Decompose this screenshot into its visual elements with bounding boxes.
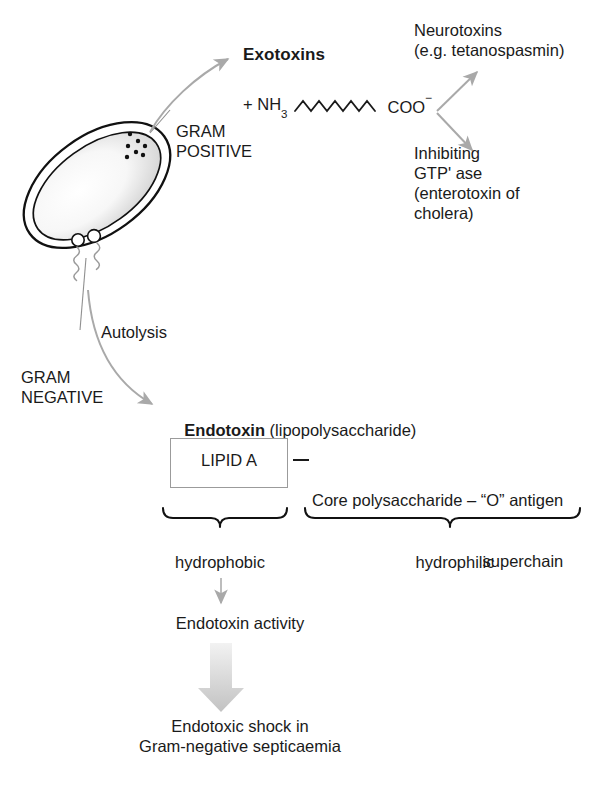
flagellum-2	[94, 243, 100, 269]
diagram-canvas: Exotoxins Neurotoxins (e.g. tetanospasmi…	[0, 0, 592, 788]
peptide-zigzag-icon	[294, 97, 380, 115]
label-exotoxins: Exotoxins	[243, 45, 325, 66]
peptide-nh-subscript: 3	[281, 108, 287, 120]
bacterium-cell	[1, 97, 193, 281]
arrow-to-neurotoxins	[437, 72, 477, 111]
label-hydrophilic: hydrophilic	[385, 552, 525, 572]
arrow-to-endotoxic-shock	[198, 643, 244, 712]
label-endotoxin-parenthetical: (lipopolysaccharide)	[265, 421, 416, 439]
peptide-coo-superscript: −	[425, 91, 432, 105]
label-core-polysaccharide-line1: Core polysaccharide – “O” antigen	[312, 490, 563, 510]
label-neurotoxins: Neurotoxins (e.g. tetanospasmin)	[414, 20, 564, 60]
peptide-coo: COO	[387, 98, 425, 116]
flagellum-base-1	[72, 234, 84, 246]
label-gram-positive: GRAM POSITIVE	[176, 121, 252, 161]
peptide-chain-formula: + NH3 COO−	[243, 93, 432, 119]
cell-granules	[125, 132, 147, 159]
gram-positive-leader-line	[150, 110, 170, 133]
label-core-polysaccharide: Core polysaccharide – “O” antigen superc…	[312, 450, 563, 611]
label-endotoxic-shock: Endotoxic shock in Gram-negative septica…	[130, 716, 350, 756]
label-autolysis: Autolysis	[101, 322, 167, 342]
label-endotoxin-bold: Endotoxin	[184, 421, 265, 439]
brace-hydrophobic	[163, 508, 287, 527]
label-hydrophobic: hydrophobic	[150, 552, 290, 572]
cell-inner-membrane	[14, 111, 179, 262]
label-gram-negative: GRAM NEGATIVE	[21, 367, 103, 407]
cell-outer-wall	[1, 97, 193, 274]
gram-negative-leader-line	[80, 258, 86, 330]
flagellum-base-2	[88, 230, 101, 243]
peptide-plus-sign: +	[243, 95, 253, 113]
label-endotoxin-activity: Endotoxin activity	[155, 613, 325, 633]
peptide-n-terminus: + NH3	[243, 95, 287, 116]
flagellum-1	[74, 247, 80, 281]
peptide-c-terminus: COO−	[387, 95, 432, 117]
label-lipid-a: LIPID A	[178, 450, 280, 470]
label-inhibiting-gtpase: Inhibiting GTP' ase (enterotoxin of chol…	[414, 143, 519, 224]
peptide-nh: NH	[257, 95, 281, 113]
